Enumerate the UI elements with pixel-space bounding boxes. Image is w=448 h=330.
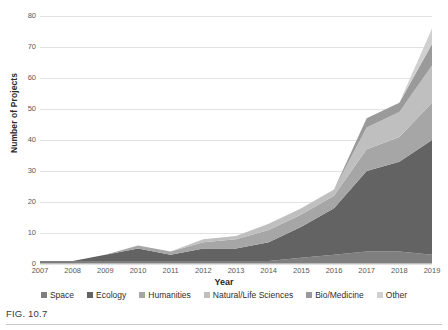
y-tick-label: 60 <box>6 74 36 82</box>
legend-swatch-icon <box>377 292 383 298</box>
y-tick-label: 70 <box>6 43 36 51</box>
plot-area <box>40 16 432 264</box>
legend-label: Other <box>386 290 407 300</box>
legend-swatch-icon <box>306 292 312 298</box>
legend-label: Humanities <box>148 290 191 300</box>
legend-item-humanities[interactable]: Humanities <box>139 290 191 300</box>
chart-legend: SpaceEcologyHumanitiesNatural/Life Scien… <box>0 290 448 300</box>
y-tick-label: 10 <box>6 229 36 237</box>
figure-page: Number of Projects 01020304050607080 200… <box>0 0 448 330</box>
y-tick-label: 30 <box>6 167 36 175</box>
legend-item-ecology[interactable]: Ecology <box>87 290 126 300</box>
chart-container: Number of Projects 01020304050607080 200… <box>0 0 448 282</box>
caption-divider <box>6 324 442 325</box>
y-tick-label: 20 <box>6 198 36 206</box>
legend-swatch-icon <box>139 292 145 298</box>
legend-item-natural-life-sciences[interactable]: Natural/Life Sciences <box>204 290 293 300</box>
y-tick-label: 80 <box>6 12 36 20</box>
x-axis-line <box>40 263 432 264</box>
figure-caption: FIG. 10.7 <box>6 308 47 319</box>
x-tick-label: 2019 <box>412 266 448 275</box>
y-axis-ticks: 01020304050607080 <box>0 16 36 264</box>
legend-label: Bio/Medicine <box>315 290 364 300</box>
x-axis-title: Year <box>0 277 448 287</box>
legend-label: Natural/Life Sciences <box>213 290 293 300</box>
legend-swatch-icon <box>204 292 210 298</box>
y-tick-label: 40 <box>6 136 36 144</box>
legend-label: Space <box>50 290 74 300</box>
legend-item-other[interactable]: Other <box>377 290 407 300</box>
legend-swatch-icon <box>41 292 47 298</box>
legend-item-bio-medicine[interactable]: Bio/Medicine <box>306 290 364 300</box>
legend-swatch-icon <box>87 292 93 298</box>
legend-label: Ecology <box>96 290 126 300</box>
legend-item-space[interactable]: Space <box>41 290 74 300</box>
gridline <box>40 264 432 265</box>
stacked-area-series <box>40 16 432 264</box>
y-tick-label: 50 <box>6 105 36 113</box>
